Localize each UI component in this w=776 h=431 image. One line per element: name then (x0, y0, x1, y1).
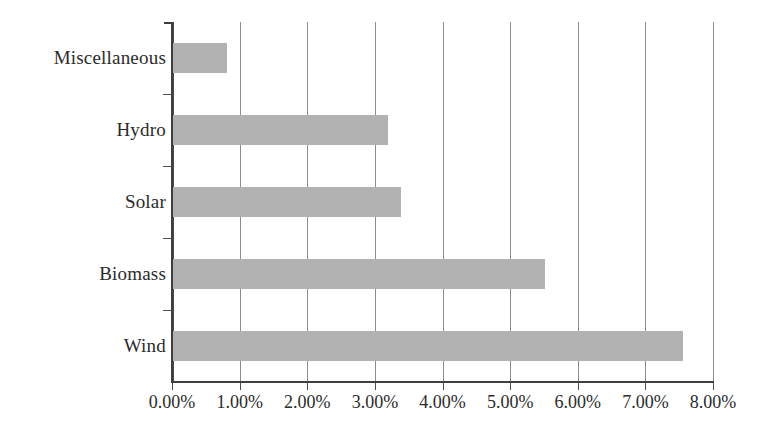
bar-miscellaneous (172, 43, 227, 73)
x-axis-tick-3.00% (375, 383, 376, 390)
x-axis-tick-2.00% (307, 383, 308, 390)
gridline-6.00% (578, 22, 579, 382)
bar-chart: MiscellaneousHydroSolarBiomassWind 0.00%… (0, 0, 776, 431)
y-axis-tick-2 (163, 166, 172, 167)
plot-area (172, 22, 713, 382)
y-axis-tick-labels: MiscellaneousHydroSolarBiomassWind (0, 0, 166, 431)
y-axis-tick-4 (163, 310, 172, 311)
bar-biomass (172, 259, 545, 289)
gridline-8.00% (713, 22, 714, 382)
x-axis-tick-4.00% (443, 383, 444, 390)
y-axis-label-solar: Solar (6, 192, 166, 211)
gridline-7.00% (645, 22, 646, 382)
x-axis-tick-7.00% (645, 383, 646, 390)
x-axis-tick-0.00% (172, 383, 173, 390)
x-axis-tick-1.00% (240, 383, 241, 390)
gridline-5.00% (510, 22, 511, 382)
bar-hydro (172, 115, 388, 145)
y-axis-label-miscellaneous: Miscellaneous (6, 48, 166, 67)
x-axis-tick-6.00% (578, 383, 579, 390)
y-axis-label-wind: Wind (6, 336, 166, 355)
bar-solar (172, 187, 401, 217)
y-axis-tick-3 (163, 238, 172, 239)
y-axis-tick-1 (163, 94, 172, 95)
gridline-4.00% (443, 22, 444, 382)
x-axis-tick-5.00% (510, 383, 511, 390)
bar-wind (172, 331, 683, 361)
x-axis-tick-8.00% (713, 383, 714, 390)
y-axis-label-biomass: Biomass (6, 264, 166, 283)
y-axis-label-hydro: Hydro (6, 120, 166, 139)
x-axis-label-8.00%: 8.00% (668, 392, 758, 412)
y-axis-line (171, 22, 173, 382)
